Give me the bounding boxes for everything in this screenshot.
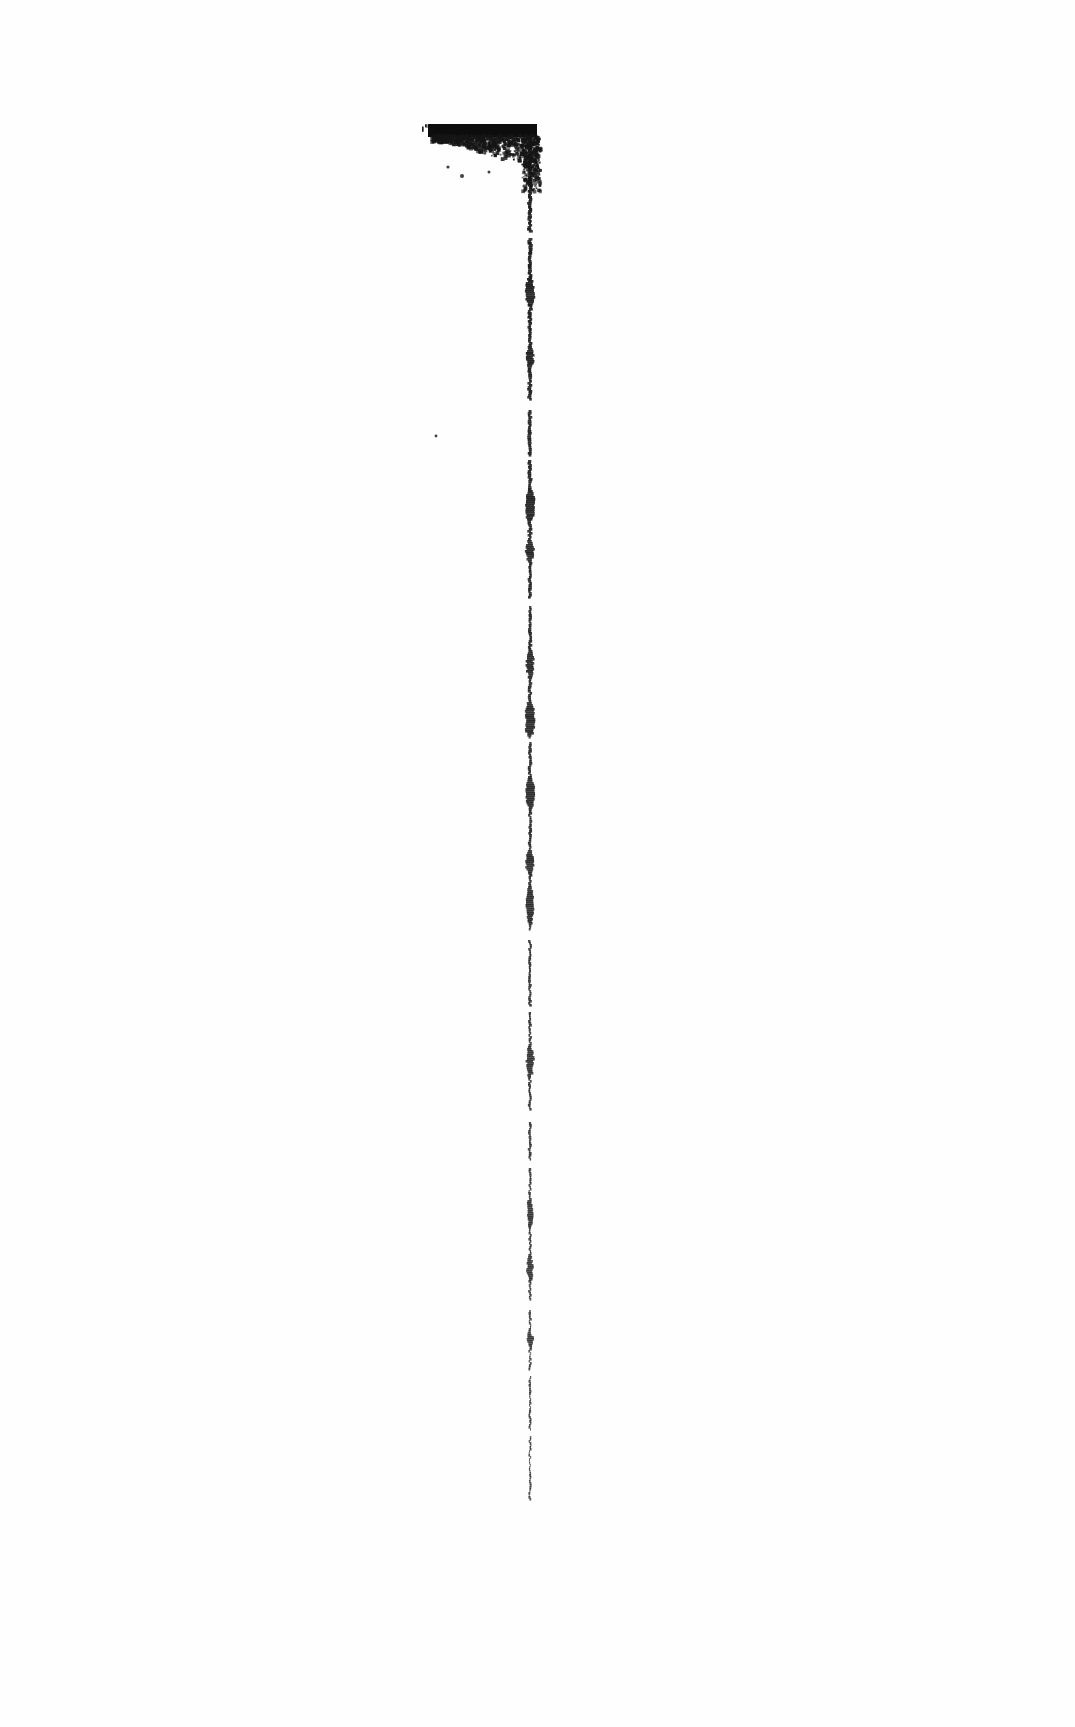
bleed-fleck	[514, 142, 516, 144]
bleed-fleck	[517, 143, 519, 145]
corner-bleed-fleck	[535, 156, 537, 158]
corner-bleed-fleck	[537, 164, 538, 165]
bleed-fleck	[464, 143, 466, 145]
corner-bleed-fleck	[533, 182, 537, 186]
corner-bleed-fleck	[539, 148, 543, 152]
corner-bleed-fleck	[539, 184, 542, 187]
corner-bleed-fleck	[537, 146, 539, 148]
bar-edge-fleck	[425, 124, 427, 127]
bleed-fleck	[494, 154, 497, 157]
corner-bleed-fleck	[537, 157, 540, 160]
corner-bleed-fleck	[533, 136, 534, 137]
bleed-fleck	[476, 135, 479, 138]
bleed-fleck	[475, 147, 478, 150]
corner-bleed-fleck	[539, 162, 541, 164]
bleed-fleck	[496, 144, 497, 145]
corner-bleed-fleck	[535, 176, 538, 179]
bleed-fleck	[443, 135, 446, 138]
bleed-fleck	[517, 134, 519, 136]
bleed-fleck	[470, 143, 473, 146]
bleed-fleck	[457, 140, 459, 142]
bleed-fleck	[453, 143, 457, 147]
bleed-fleck	[494, 135, 495, 136]
vertical-rule-segment	[528, 1078, 530, 1081]
bleed-fleck	[509, 153, 512, 156]
corner-bleed-fleck	[522, 177, 523, 178]
corner-bleed-fleck	[534, 163, 537, 166]
bleed-fleck	[484, 152, 486, 154]
vertical-rule-segment	[529, 230, 533, 233]
bleed-fleck	[510, 143, 514, 147]
corner-bleed-fleck	[539, 190, 542, 193]
bleed-fleck	[470, 141, 471, 142]
corner-bleed-fleck	[524, 173, 528, 177]
corner-bleed-fleck	[529, 145, 531, 147]
bleed-fleck	[432, 139, 435, 142]
bleed-fleck	[519, 135, 520, 136]
corner-bleed-fleck	[523, 184, 525, 186]
bleed-fleck	[474, 134, 475, 135]
vertical-rule-segment	[529, 1462, 530, 1465]
bleed-fleck	[431, 134, 432, 135]
corner-bleed-fleck	[528, 159, 531, 162]
vertical-rule-segment	[529, 454, 532, 457]
vertical-rule-segment	[529, 1360, 530, 1363]
vertical-rule-segment	[529, 736, 531, 739]
bleed-fleck	[504, 143, 507, 146]
corner-bleed-fleck	[537, 160, 538, 161]
corner-bleed-fleck	[530, 166, 532, 168]
vertical-rule-segment	[530, 1448, 532, 1451]
bleed-fleck	[482, 145, 484, 147]
bar-edge-fleck	[433, 124, 435, 128]
bleed-fleck	[520, 161, 521, 162]
corner-bleed-fleck	[529, 172, 530, 173]
vertical-rule-segment	[529, 1404, 530, 1407]
bleed-fleck	[501, 145, 503, 147]
bleed-fleck	[510, 135, 514, 139]
vertical-rule-segment	[528, 596, 531, 599]
vertical-rule-segment	[530, 1158, 531, 1161]
speck-mark	[488, 171, 491, 174]
bleed-fleck	[489, 149, 491, 151]
bleed-fleck	[478, 143, 481, 146]
bleed-fleck	[468, 140, 469, 141]
speck-mark	[446, 165, 449, 168]
bleed-fleck	[506, 139, 507, 140]
bleed-fleck	[483, 135, 485, 137]
bleed-fleck	[442, 137, 445, 140]
bleed-fleck	[513, 159, 515, 161]
bleed-fleck	[494, 147, 497, 150]
corner-bleed-fleck	[531, 160, 534, 163]
vertical-rule-segment	[528, 1368, 530, 1371]
vertical-rule-segment	[528, 1454, 530, 1457]
bleed-fleck	[446, 135, 448, 137]
bleed-fleck	[488, 143, 490, 145]
bleed-fleck	[440, 136, 442, 138]
bleed-fleck	[517, 148, 521, 152]
bleed-fleck	[443, 140, 446, 143]
corner-bleed-fleck	[535, 169, 537, 171]
bleed-fleck	[500, 154, 502, 156]
bleed-fleck	[518, 155, 521, 158]
bleed-fleck	[484, 140, 486, 142]
bar-edge-fleck	[437, 127, 440, 130]
bleed-fleck	[458, 138, 460, 140]
corner-bleed-fleck	[526, 144, 529, 147]
corner-bleed-fleck	[524, 189, 526, 191]
vertical-rule-segment	[529, 1108, 531, 1111]
corner-bleed-fleck	[527, 136, 530, 139]
corner-bleed-fleck	[533, 149, 536, 152]
corner-bleed-fleck	[536, 136, 539, 139]
corner-bleed-fleck	[535, 166, 536, 167]
bar-edge-fleck	[431, 126, 432, 128]
bleed-fleck	[505, 155, 507, 157]
corner-bleed-fleck	[524, 146, 525, 147]
corner-bleed-fleck	[538, 144, 539, 145]
bar-edge-fleck	[427, 124, 428, 128]
corner-bleed-fleck	[529, 155, 533, 159]
bleed-fleck	[456, 138, 457, 139]
speck-mark	[430, 128, 434, 132]
vertical-rule-segment	[529, 1498, 531, 1501]
corner-bleed-fleck	[533, 190, 537, 194]
bleed-fleck	[510, 140, 512, 142]
